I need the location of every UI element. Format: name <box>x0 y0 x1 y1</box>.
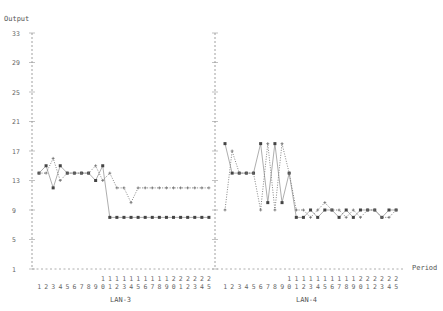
x-tick-label: 3 <box>309 283 313 291</box>
data-point-marker <box>172 216 175 219</box>
data-point-marker <box>151 186 154 189</box>
data-point-marker <box>52 186 55 189</box>
x-tick-label: 3 <box>380 283 384 291</box>
data-point-marker <box>259 142 262 145</box>
data-point-marker <box>359 209 362 212</box>
x-tick-label: 8 <box>344 283 348 291</box>
data-point-marker <box>165 186 168 189</box>
x-tick-label: 1 <box>115 275 119 283</box>
x-tick-label: 7 <box>80 283 84 291</box>
x-tick-label: 1 <box>287 275 291 283</box>
y-tick-label: 13 <box>12 177 20 185</box>
data-point-marker <box>295 216 298 219</box>
data-point-marker <box>338 216 341 219</box>
data-point-marker <box>207 216 210 219</box>
data-point-marker <box>158 186 161 189</box>
x-tick-label: 2 <box>179 275 183 283</box>
x-tick-label: 5 <box>323 283 327 291</box>
lan-4-dotted-line <box>225 144 396 218</box>
data-point-marker <box>316 216 319 219</box>
x-tick-label: 1 <box>295 275 299 283</box>
x-tick-label: 2 <box>186 283 190 291</box>
data-point-marker <box>193 216 196 219</box>
data-point-marker <box>130 201 133 204</box>
data-point-marker <box>158 216 161 219</box>
x-tick-label: 0 <box>359 283 363 291</box>
lan-4-solid-line <box>225 144 396 218</box>
data-point-marker <box>94 179 97 182</box>
data-point-marker <box>345 216 348 219</box>
x-tick-label: 1 <box>158 275 162 283</box>
x-tick-label: 6 <box>73 283 77 291</box>
data-point-marker <box>302 216 305 219</box>
line-chart: Output Period LAN-3 LAN-4 15913172125293… <box>0 0 443 311</box>
x-tick-label: 1 <box>223 283 227 291</box>
panel-label-lan3: LAN-3 <box>110 296 131 304</box>
data-point-marker <box>224 142 227 145</box>
x-tick-label: 8 <box>87 283 91 291</box>
x-tick-label: 1 <box>150 275 154 283</box>
x-tick-label: 9 <box>352 283 356 291</box>
data-point-marker <box>115 216 118 219</box>
data-point-marker <box>200 216 203 219</box>
x-tick-label: 1 <box>344 275 348 283</box>
x-tick-label: 2 <box>394 275 398 283</box>
data-point-marker <box>151 216 154 219</box>
data-point-marker <box>309 216 312 219</box>
x-tick-label: 2 <box>186 275 190 283</box>
data-point-marker <box>130 216 133 219</box>
data-point-marker <box>101 164 104 167</box>
data-point-marker <box>387 209 390 212</box>
x-tick-label: 8 <box>273 283 277 291</box>
x-tick-label: 1 <box>101 275 105 283</box>
x-tick-label: 1 <box>352 275 356 283</box>
y-axis-title: Output <box>4 15 29 23</box>
x-tick-label: 1 <box>323 275 327 283</box>
x-tick-label: 2 <box>207 275 211 283</box>
data-point-marker <box>281 201 284 204</box>
data-point-marker <box>137 216 140 219</box>
x-tick-label: 3 <box>122 283 126 291</box>
y-tick-label: 1 <box>12 266 16 274</box>
panel-label-lan4: LAN-4 <box>296 296 317 304</box>
data-point-marker <box>273 142 276 145</box>
data-point-marker <box>52 157 55 160</box>
y-tick-label: 9 <box>12 207 16 215</box>
data-point-marker <box>172 186 175 189</box>
x-tick-label: 8 <box>158 283 162 291</box>
x-tick-label: 2 <box>200 275 204 283</box>
data-point-marker <box>59 164 62 167</box>
x-tick-label: 2 <box>366 275 370 283</box>
y-tick-label: 21 <box>12 118 20 126</box>
x-tick-label: 9 <box>94 283 98 291</box>
x-tick-label: 0 <box>287 283 291 291</box>
x-tick-label: 5 <box>207 283 211 291</box>
x-tick-label: 4 <box>316 283 320 291</box>
data-point-marker <box>352 216 355 219</box>
x-tick-label: 9 <box>165 283 169 291</box>
x-tick-label: 1 <box>295 283 299 291</box>
data-point-marker <box>122 186 125 189</box>
x-tick-label: 1 <box>129 275 133 283</box>
data-point-marker <box>281 142 284 145</box>
data-point-marker <box>45 164 48 167</box>
x-tick-label: 2 <box>115 283 119 291</box>
data-point-marker <box>302 209 305 212</box>
data-point-marker <box>186 186 189 189</box>
x-tick-label: 1 <box>316 275 320 283</box>
x-tick-label: 2 <box>44 283 48 291</box>
data-point-marker <box>323 209 326 212</box>
data-point-marker <box>231 172 234 175</box>
y-tick-label: 5 <box>12 236 16 244</box>
x-tick-label: 2 <box>380 275 384 283</box>
x-tick-label: 1 <box>337 275 341 283</box>
x-tick-label: 1 <box>37 283 41 291</box>
x-tick-label: 1 <box>136 275 140 283</box>
data-point-marker <box>224 209 227 212</box>
data-point-marker <box>179 186 182 189</box>
data-point-marker <box>137 186 140 189</box>
x-axis-title: Period <box>412 264 437 272</box>
data-point-marker <box>273 209 276 212</box>
data-point-marker <box>186 216 189 219</box>
x-tick-label: 0 <box>101 283 105 291</box>
